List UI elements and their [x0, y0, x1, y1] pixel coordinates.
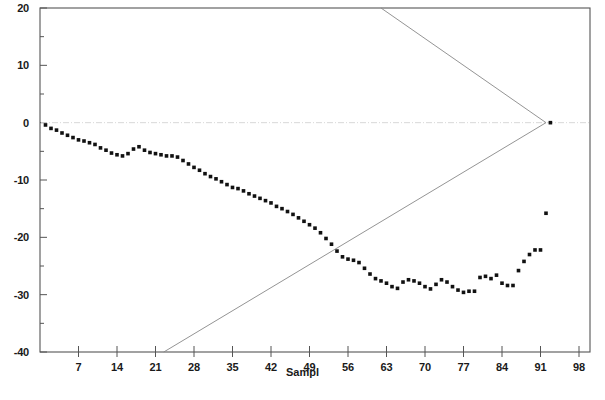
y-tick-label: -20	[0, 231, 29, 243]
data-point	[66, 133, 70, 137]
data-point	[330, 242, 334, 246]
data-point	[456, 288, 460, 292]
data-point	[148, 151, 152, 155]
data-point	[484, 275, 488, 279]
data-point	[253, 194, 257, 198]
data-point	[99, 146, 103, 150]
data-point	[374, 277, 378, 281]
data-point	[478, 276, 482, 280]
data-point	[324, 237, 328, 241]
data-point	[198, 168, 202, 172]
data-point	[533, 248, 537, 252]
data-point	[203, 172, 207, 176]
data-point	[462, 291, 466, 295]
data-point	[44, 123, 48, 127]
data-point	[528, 253, 532, 257]
data-point	[500, 281, 504, 285]
data-point	[231, 186, 235, 190]
y-tick-label: -40	[0, 346, 29, 358]
data-point	[269, 201, 273, 205]
data-point	[396, 287, 400, 291]
lower-control-limit	[164, 123, 546, 352]
data-point	[390, 285, 394, 289]
data-point	[132, 147, 136, 151]
data-point	[517, 269, 521, 273]
data-point	[258, 197, 262, 201]
data-point	[473, 289, 477, 293]
data-point	[495, 273, 499, 277]
data-point	[511, 284, 515, 288]
data-point	[121, 154, 125, 158]
data-point	[440, 278, 444, 282]
data-point	[280, 207, 284, 211]
data-point	[165, 154, 169, 158]
data-point	[110, 151, 114, 155]
data-point	[467, 289, 471, 293]
plot-frame	[40, 8, 590, 352]
y-tick-label: 20	[0, 2, 29, 14]
x-axis-title: Sampl	[0, 366, 605, 378]
data-point	[159, 153, 163, 157]
data-point	[209, 175, 213, 179]
data-point	[291, 213, 295, 217]
data-point	[275, 205, 279, 209]
data-point	[385, 281, 389, 285]
data-point	[313, 226, 317, 230]
data-point	[363, 266, 367, 270]
data-point	[264, 199, 268, 203]
data-point	[346, 257, 350, 261]
data-point	[423, 285, 427, 289]
data-point	[302, 219, 306, 223]
data-point	[60, 131, 64, 135]
data-point	[506, 284, 510, 288]
data-point	[308, 223, 312, 227]
data-point	[319, 231, 323, 235]
data-point	[286, 210, 290, 214]
data-point	[242, 189, 246, 193]
data-point	[451, 285, 455, 289]
y-tick-label: 10	[0, 59, 29, 71]
data-point	[434, 283, 438, 287]
data-point	[297, 216, 301, 220]
data-point	[88, 141, 92, 145]
data-point	[236, 187, 240, 191]
data-point	[93, 143, 97, 147]
data-point	[522, 260, 526, 264]
scatter-chart-figure: 20100-10-20-30-40 7142128354249566370778…	[0, 0, 605, 400]
data-point	[352, 258, 356, 262]
data-point	[225, 183, 229, 187]
plot-canvas	[0, 0, 605, 400]
data-point	[170, 154, 174, 158]
data-point	[549, 121, 553, 125]
data-point	[143, 148, 147, 152]
data-point	[401, 280, 405, 284]
data-point	[115, 153, 119, 157]
data-point	[412, 279, 416, 283]
data-point	[489, 277, 493, 281]
data-point	[181, 159, 185, 163]
data-point	[176, 155, 180, 159]
y-tick-label: -30	[0, 289, 29, 301]
data-point	[71, 136, 75, 140]
data-point	[341, 255, 345, 259]
data-point	[379, 279, 383, 283]
data-point	[539, 248, 543, 252]
data-point	[187, 162, 191, 166]
data-point	[247, 192, 251, 196]
data-point	[335, 249, 339, 253]
data-point	[82, 139, 86, 143]
upper-control-limit	[381, 8, 546, 123]
data-point	[192, 166, 196, 170]
data-point	[418, 281, 422, 285]
data-point	[104, 148, 108, 152]
data-point	[49, 127, 53, 131]
data-point	[126, 152, 130, 156]
y-tick-label: -10	[0, 174, 29, 186]
data-point-series	[44, 121, 552, 294]
data-point	[77, 138, 81, 142]
y-tick-label: 0	[0, 117, 29, 129]
data-point	[544, 211, 548, 215]
data-point	[407, 278, 411, 282]
data-point	[154, 152, 158, 156]
data-point	[220, 180, 224, 184]
